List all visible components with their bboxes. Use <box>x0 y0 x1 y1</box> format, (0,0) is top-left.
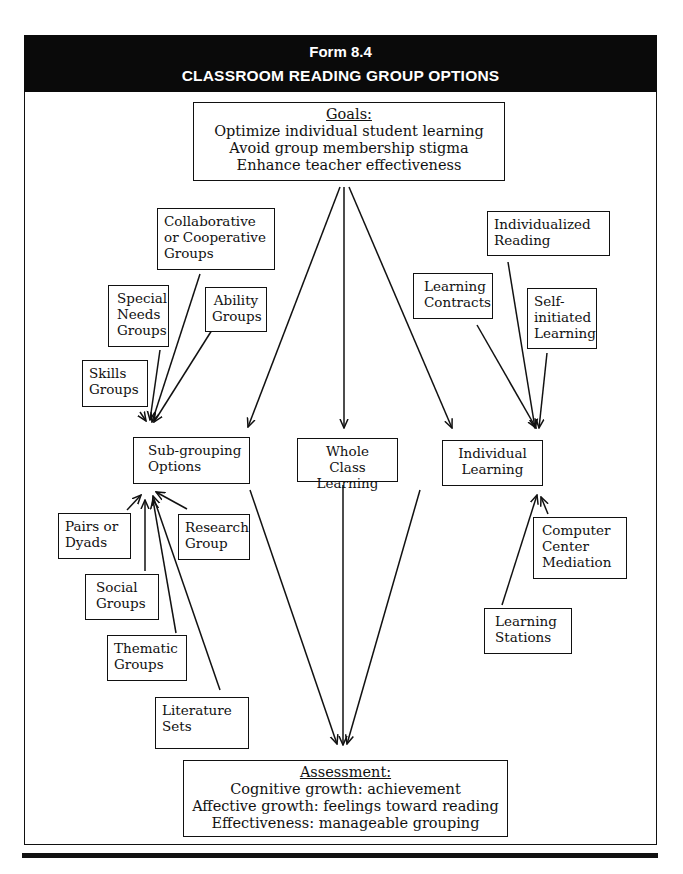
box-label: Skills Groups <box>89 365 139 397</box>
literature-sets-box: Literature Sets <box>155 697 249 749</box>
box-label: Literature Sets <box>162 702 232 734</box>
computer-center-mediation-box: Computer Center Mediation <box>533 517 627 579</box>
collaborative-groups-box: Collaborative or Cooperative Groups <box>157 208 275 270</box>
box-label: Individual Learning <box>458 445 527 477</box>
box-label: Ability Groups <box>212 292 262 324</box>
learning-contracts-box: Learning Contracts <box>413 273 493 319</box>
box-label: Self-initiated Learning <box>534 293 596 341</box>
box-label: Collaborative or Cooperative Groups <box>164 213 266 261</box>
box-label: Learning Contracts <box>424 278 491 310</box>
box-label: Social Groups <box>96 579 146 611</box>
research-group-box: Research Group <box>178 514 250 560</box>
individual-learning-box[interactable]: Individual Learning <box>442 440 543 486</box>
box-label: Sub-grouping Options <box>148 442 241 474</box>
thematic-groups-box: Thematic Groups <box>107 635 187 681</box>
assessment-box: Assessment: Cognitive growth: achievemen… <box>183 760 508 837</box>
box-label: Special Needs Groups <box>117 290 167 338</box>
goals-heading: Goals: <box>200 106 498 123</box>
box-label: Individualized Reading <box>494 216 591 248</box>
box-label: Whole Class Learning <box>317 443 379 491</box>
box-label: Learning Stations <box>495 613 557 645</box>
assessment-item: Affective growth: feelings toward readin… <box>190 798 501 815</box>
self-initiated-learning-box: Self-initiated Learning <box>527 288 597 349</box>
assessment-item: Effectiveness: manageable grouping <box>190 815 501 832</box>
bottom-rule <box>22 853 658 858</box>
goal-item: Enhance teacher effectiveness <box>200 157 498 174</box>
box-label: Pairs or Dyads <box>65 518 118 550</box>
goal-item: Avoid group membership stigma <box>200 140 498 157</box>
box-label: Thematic Groups <box>114 640 178 672</box>
whole-class-learning-box[interactable]: Whole Class Learning <box>297 438 398 482</box>
box-label: Computer Center Mediation <box>542 522 611 570</box>
sub-grouping-options-box[interactable]: Sub-grouping Options <box>133 437 250 484</box>
skills-groups-box: Skills Groups <box>82 360 148 407</box>
goal-item: Optimize individual student learning <box>200 123 498 140</box>
box-label: Research Group <box>185 519 249 551</box>
pairs-or-dyads-box: Pairs or Dyads <box>58 513 131 559</box>
ability-groups-box: Ability Groups <box>205 287 267 332</box>
learning-stations-box: Learning Stations <box>484 608 572 654</box>
assessment-heading: Assessment: <box>190 764 501 781</box>
assessment-item: Cognitive growth: achievement <box>190 781 501 798</box>
social-groups-box: Social Groups <box>85 574 159 620</box>
goals-box: Goals: Optimize individual student learn… <box>193 102 505 181</box>
special-needs-groups-box: Special Needs Groups <box>108 285 169 347</box>
individualized-reading-box: Individualized Reading <box>487 211 610 256</box>
